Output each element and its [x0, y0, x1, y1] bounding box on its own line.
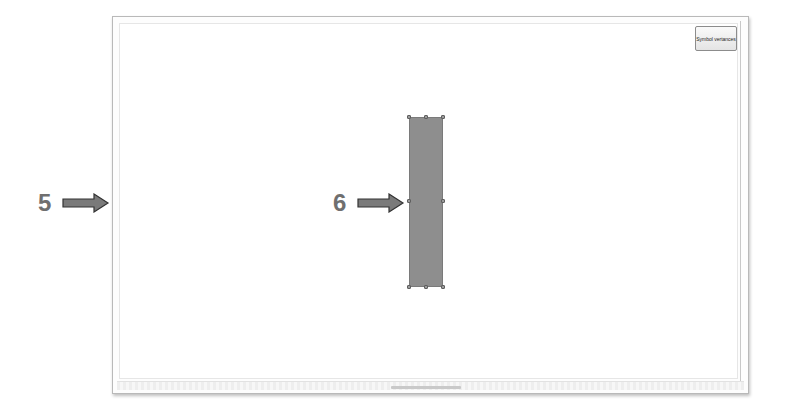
resize-handle-bottom-right[interactable] [441, 285, 445, 289]
resize-handle-bottom-left[interactable] [407, 285, 411, 289]
symbol-button-label: Symbol vertances [696, 36, 736, 42]
resize-handle-top-right[interactable] [441, 115, 445, 119]
callout-number-6: 6 [333, 191, 346, 215]
arrow-right-icon [62, 193, 110, 213]
resize-handle-top-left[interactable] [407, 115, 411, 119]
selected-rectangle-shape[interactable] [409, 117, 443, 287]
horizontal-scroll-thumb[interactable] [391, 386, 461, 389]
resize-handle-middle-right[interactable] [441, 199, 445, 203]
symbol-button[interactable]: Symbol vertances [695, 26, 737, 51]
arrow-right-icon [357, 193, 405, 213]
callout-number-5: 5 [38, 191, 51, 215]
resize-handle-top-middle[interactable] [424, 115, 428, 119]
vertical-scrollbar[interactable] [740, 21, 745, 381]
resize-handle-middle-left[interactable] [407, 199, 411, 203]
resize-handle-bottom-middle[interactable] [424, 285, 428, 289]
